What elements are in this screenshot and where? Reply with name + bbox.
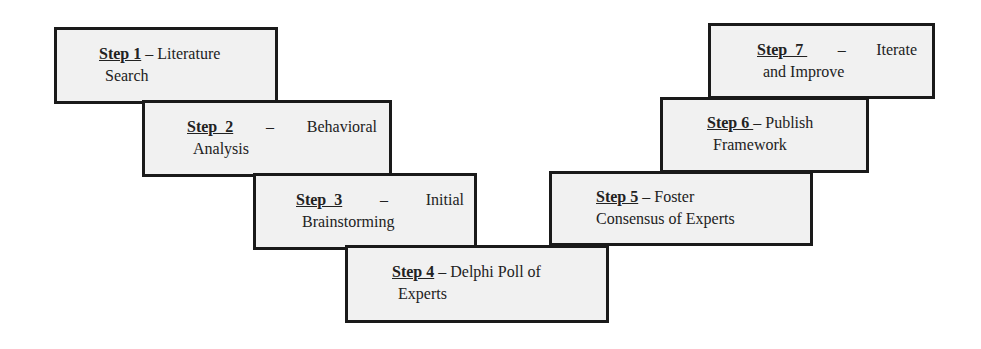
step-2-label: Step 2 (187, 116, 233, 138)
step-6-label: Step 6 (707, 114, 753, 131)
step-4-title-line1: Delphi Poll of (450, 263, 541, 280)
step-5-label: Step 5 (596, 188, 638, 205)
step-3-box: Step 3 – Initial Brainstorming (253, 173, 477, 250)
step-3-separator: – (380, 189, 388, 211)
step-4-box: Step 4 – Delphi Poll of Experts (345, 245, 609, 323)
step-3-title-line2: Brainstorming (296, 211, 464, 233)
step-5-box: Step 5 – Foster Consensus of Experts (549, 171, 813, 246)
step-1-box: Step 1 – Literature Search (54, 27, 278, 104)
step-6-title-line2: Framework (707, 134, 813, 156)
step-4-title-line2: Experts (392, 283, 541, 305)
step-7-separator: – (838, 39, 846, 61)
step-5-title-line2: Consensus of Experts (596, 208, 735, 230)
step-6-separator: – (753, 114, 765, 131)
step-1-text: Step 1 – Literature Search (99, 43, 220, 87)
step-1-title-line2: Search (99, 65, 220, 87)
step-6-title-line1: Publish (765, 114, 813, 131)
step-5-separator: – (638, 188, 654, 205)
step-3-label: Step 3 (296, 189, 342, 211)
step-1-separator: – (141, 45, 157, 62)
step-5-title-line1: Foster (654, 188, 694, 205)
step-6-text: Step 6 – Publish Framework (707, 112, 813, 156)
step-1-label: Step 1 (99, 45, 141, 62)
step-3-title-line1: Initial (426, 189, 464, 211)
step-2-separator: – (266, 116, 274, 138)
step-5-text: Step 5 – Foster Consensus of Experts (596, 186, 735, 230)
step-7-text: Step 7 – Iterate and Improve (757, 39, 917, 83)
step-2-title-line2: Analysis (187, 138, 377, 160)
step-6-box: Step 6 – Publish Framework (660, 97, 869, 173)
step-2-text: Step 2 – Behavioral Analysis (187, 116, 377, 160)
step-4-text: Step 4 – Delphi Poll of Experts (392, 261, 541, 305)
step-2-box: Step 2 – Behavioral Analysis (142, 100, 392, 177)
step-7-box: Step 7 – Iterate and Improve (708, 23, 935, 99)
step-4-separator: – (434, 263, 450, 280)
step-7-label: Step 7 (757, 39, 807, 61)
step-2-title-line1: Behavioral (307, 116, 377, 138)
step-7-title-line1: Iterate (876, 39, 917, 61)
step-1-title-line1: Literature (157, 45, 220, 62)
step-3-text: Step 3 – Initial Brainstorming (296, 189, 464, 233)
step-4-label: Step 4 (392, 263, 434, 280)
step-7-title-line2: and Improve (757, 61, 917, 83)
